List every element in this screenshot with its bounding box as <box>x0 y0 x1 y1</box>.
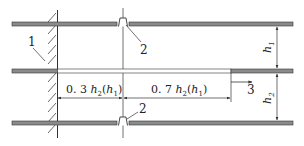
dim-left-sub: 2 <box>98 90 102 98</box>
dim-left-prefix: 0. 3 <box>66 83 87 96</box>
label-height-lower: h2 <box>262 92 276 104</box>
label-nozzle-top: 2 <box>140 44 148 56</box>
height-upper-sub: 1 <box>268 41 276 45</box>
label-nozzle-bottom: 2 <box>139 103 147 115</box>
leader-nozzle-bottom <box>127 112 138 119</box>
top-plate <box>12 22 293 26</box>
plate-nozzle-diagram <box>0 0 304 146</box>
height-lower-sub: 2 <box>268 92 276 96</box>
label-wall: 1 <box>28 36 36 48</box>
dim-right-var: h <box>176 83 183 96</box>
label-dim-left: 0. 3 h2(h1) <box>66 84 122 98</box>
leader-nozzle-top <box>126 25 141 42</box>
middle-plate <box>12 69 293 73</box>
dim-right-prefix: 0. 7 <box>151 83 172 96</box>
bottom-nozzle-icon <box>119 117 128 126</box>
dim-right-sub: 2 <box>183 90 187 98</box>
height-upper-var: h <box>261 46 274 53</box>
bottom-plate <box>12 121 293 125</box>
dim-left-var: h <box>91 83 98 96</box>
dim-left-paren-sub: 1 <box>113 90 117 98</box>
leader-wall <box>33 48 45 61</box>
label-dim-right: 0. 7 h2(h1) <box>151 84 207 98</box>
height-lower-var: h <box>261 97 274 104</box>
label-height-upper: h1 <box>262 41 276 53</box>
dim-right-paren-sub: 1 <box>198 90 202 98</box>
label-flow-direction: 3 <box>247 84 255 96</box>
